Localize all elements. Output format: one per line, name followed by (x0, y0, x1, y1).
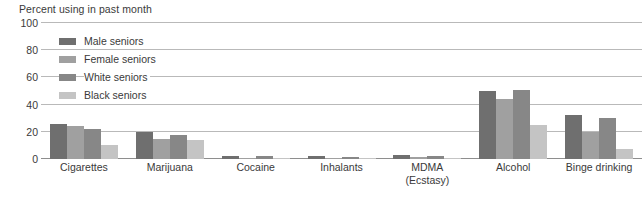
bar (444, 158, 461, 159)
legend-swatch-icon (59, 38, 76, 45)
legend-label: White seniors (84, 71, 150, 83)
x-tick-label: Alcohol (496, 161, 530, 174)
x-tick-label-line: MDMA (405, 161, 449, 174)
bar (599, 118, 616, 159)
bar-group (308, 23, 376, 159)
bar (187, 140, 204, 159)
x-axis-tick-labels: CigarettesMarijuanaCocaineInhalantsMDMA(… (0, 161, 642, 205)
x-tick-label-line: Binge drinking (566, 161, 633, 174)
bar (582, 132, 599, 159)
bar-chart: Percent using in past month 020406080100… (0, 0, 642, 205)
legend-label: Black seniors (84, 89, 148, 101)
bar (359, 158, 376, 159)
legend-label: Female seniors (84, 53, 158, 65)
bar (84, 129, 101, 159)
bar (153, 139, 170, 159)
x-tick-label: Binge drinking (566, 161, 633, 174)
legend-label: Male seniors (84, 35, 146, 47)
x-tick-label: Cigarettes (60, 161, 108, 174)
y-tick-label-100: 100 (14, 17, 38, 29)
bar (136, 132, 153, 159)
legend-item[interactable]: Female seniors (59, 51, 209, 67)
x-tick-label-line: Cigarettes (60, 161, 108, 174)
bar (513, 90, 530, 159)
x-tick-label-line: Marijuana (147, 161, 193, 174)
bar (308, 156, 325, 159)
chart-legend: Male seniorsFemale seniorsWhite seniorsB… (59, 33, 209, 105)
bar (427, 156, 444, 159)
bar (170, 135, 187, 159)
x-tick-label-line: Alcohol (496, 161, 530, 174)
legend-swatch-icon (59, 56, 76, 63)
x-tick-label: Inhalants (320, 161, 363, 174)
bar (50, 124, 67, 159)
x-tick-label: Cocaine (236, 161, 275, 174)
bar (496, 99, 513, 159)
bar (393, 155, 410, 159)
legend-item[interactable]: Male seniors (59, 33, 209, 49)
y-tick-label-20: 20 (14, 126, 38, 138)
bar (479, 91, 496, 159)
x-tick-label: MDMA(Ecstasy) (405, 161, 449, 187)
x-tick-label-line: Cocaine (236, 161, 275, 174)
x-tick-label-line: (Ecstasy) (405, 174, 449, 187)
bar (101, 145, 118, 159)
legend-item[interactable]: White seniors (59, 69, 209, 85)
bar (616, 149, 633, 159)
bar (222, 156, 239, 159)
bar (410, 157, 427, 159)
bar (325, 158, 342, 159)
bar (239, 158, 256, 159)
legend-item[interactable]: Black seniors (59, 87, 209, 103)
bar (67, 126, 84, 159)
y-tick-label-60: 60 (14, 71, 38, 83)
chart-axis-title: Percent using in past month (19, 3, 152, 15)
bar-group (222, 23, 290, 159)
legend-swatch-icon (59, 92, 76, 99)
legend-swatch-icon (59, 74, 76, 81)
bar (256, 156, 273, 159)
bar-group (393, 23, 461, 159)
bar-group (565, 23, 633, 159)
bar (530, 125, 547, 159)
bar (565, 115, 582, 159)
bar (342, 157, 359, 159)
bar (273, 158, 290, 159)
x-tick-label-line: Inhalants (320, 161, 363, 174)
bar-group (479, 23, 547, 159)
y-tick-label-40: 40 (14, 99, 38, 111)
x-tick-label: Marijuana (147, 161, 193, 174)
y-tick-label-80: 80 (14, 44, 38, 56)
